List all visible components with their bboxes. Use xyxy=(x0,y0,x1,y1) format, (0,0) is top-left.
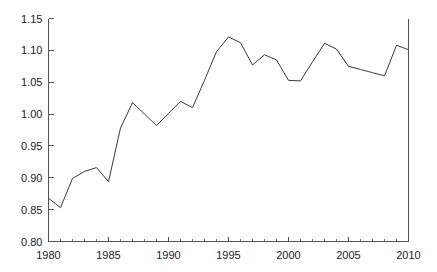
x-tick-label: 1985 xyxy=(96,249,120,261)
x-tick-label: 1995 xyxy=(216,249,240,261)
axis-frame xyxy=(49,19,409,242)
y-tick-label: 1.10 xyxy=(21,44,42,56)
data-series-line xyxy=(49,37,409,208)
y-axis-tick-marks xyxy=(49,19,54,242)
x-tick-label: 1990 xyxy=(156,249,180,261)
x-tick-label: 2005 xyxy=(336,249,360,261)
x-tick-label: 2010 xyxy=(396,249,420,261)
x-tick-label: 2000 xyxy=(276,249,300,261)
x-axis-tick-labels: 1980198519901995200020052010 xyxy=(36,249,420,261)
line-chart: 0.800.850.900.951.001.051.101.15 1980198… xyxy=(0,0,437,272)
y-tick-label: 0.90 xyxy=(21,172,42,184)
y-axis-tick-labels: 0.800.850.900.951.001.051.101.15 xyxy=(21,13,42,248)
chart-container: 0.800.850.900.951.001.051.101.15 1980198… xyxy=(0,0,437,272)
x-tick-label: 1980 xyxy=(36,249,60,261)
x-axis-major-tick-marks xyxy=(49,237,409,242)
y-tick-label: 0.80 xyxy=(21,236,42,248)
y-tick-label: 1.00 xyxy=(21,108,42,120)
y-tick-label: 1.05 xyxy=(21,76,42,88)
y-tick-label: 0.95 xyxy=(21,140,42,152)
y-tick-label: 0.85 xyxy=(21,204,42,216)
y-tick-label: 1.15 xyxy=(21,13,42,25)
